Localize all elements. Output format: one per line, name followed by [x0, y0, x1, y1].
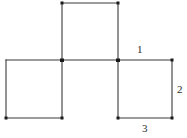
vertex-dot-center-right-junction [116, 59, 120, 63]
side-label-2: 2 [177, 84, 183, 95]
geometry-figure: 1 2 3 [0, 0, 187, 138]
left-square [6, 60, 62, 118]
side-label-3: 3 [142, 123, 148, 134]
vertex-dot-top-square-top-left [61, 2, 64, 5]
vertex-dot-right-square-bottom-right [171, 117, 174, 120]
vertex-dot-top-square-top-right [117, 2, 120, 5]
side-label-1: 1 [137, 44, 143, 55]
top-square [62, 3, 118, 60]
vertex-dot-right-square-top-right [171, 59, 174, 62]
right-square [118, 60, 172, 118]
vertex-dot-left-square-bottom-right [61, 117, 64, 120]
vertex-dot-center-left-junction [60, 59, 64, 63]
vertex-dot-right-square-bottom-left [117, 117, 120, 120]
vertex-dot-left-square-bottom-left [5, 117, 8, 120]
figure-canvas [0, 0, 187, 138]
